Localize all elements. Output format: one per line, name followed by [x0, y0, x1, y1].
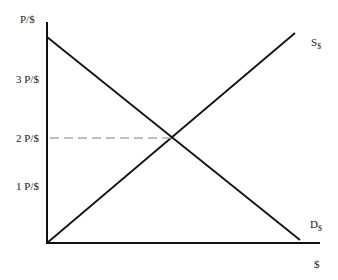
y-tick-3: 3 P/$	[16, 73, 39, 85]
supply-demand-diagram: P/$ 3 P/$ 2 P/$ 1 P/$ $ S$ D$	[0, 0, 338, 280]
y-tick-1: 1 P/$	[16, 180, 39, 192]
supply-label: S$	[311, 36, 321, 51]
demand-label: D$	[310, 218, 322, 233]
diagram-canvas: P/$ 3 P/$ 2 P/$ 1 P/$ $ S$ D$	[0, 0, 338, 280]
y-axis-label: P/$	[20, 13, 35, 25]
y-tick-2: 2 P/$	[16, 132, 39, 144]
x-axis-label: $	[314, 258, 320, 270]
